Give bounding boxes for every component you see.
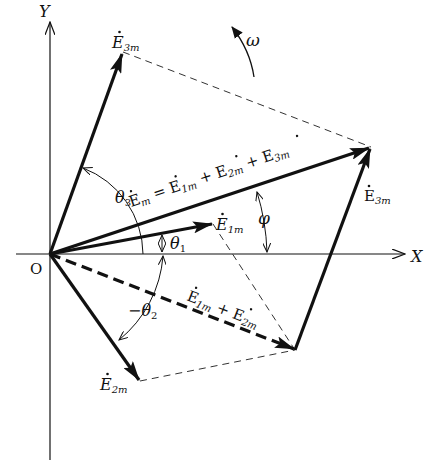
phasor-e2m <box>50 254 139 380</box>
phasor-em <box>50 148 369 254</box>
dash-e2m-to-sum12 <box>140 350 295 381</box>
label-e3m-top: E3m <box>111 31 140 53</box>
phasor-e1m-plus-e2m <box>50 254 294 349</box>
phasor-e3m <box>50 54 122 254</box>
svg-text:E2m: E2m <box>99 375 128 395</box>
svg-text:E1m: E1m <box>215 215 244 235</box>
label-e1m-plus-e2m: E1m + E2m <box>184 285 262 332</box>
y-axis-label: Y <box>39 2 51 21</box>
theta2-label: −θ2 <box>128 301 157 321</box>
label-e3m-right: E3m <box>364 185 391 206</box>
svg-text:E3m: E3m <box>111 33 140 53</box>
dash-e3m-to-em <box>123 52 371 147</box>
svg-text:E3m: E3m <box>364 187 391 206</box>
theta3-label: θ3 <box>115 188 131 208</box>
label-e2m: E2m <box>99 373 128 395</box>
omega-label: ω <box>246 30 260 50</box>
phasor-diagram: Y X O ω E3m E3m E1m E2m Em = E1m + E2m +… <box>0 0 438 471</box>
x-axis-label: X <box>409 247 423 266</box>
phi-label: φ <box>258 208 270 228</box>
theta1-label: θ1 <box>170 234 186 254</box>
label-e1m: E1m <box>215 213 244 235</box>
origin-label: O <box>30 260 42 278</box>
phasor-e3m-translated <box>295 149 370 350</box>
theta2-arc <box>119 256 163 340</box>
